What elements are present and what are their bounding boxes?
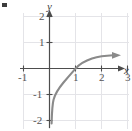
y-tick-label-neg1: -1 — [33, 89, 42, 100]
graph-figure: y x -1 1 2 3 2 1 -1 -2 — [0, 0, 132, 131]
data-curve — [52, 52, 121, 124]
x-tick-label-1: 1 — [73, 72, 79, 83]
curve-arrowhead — [112, 52, 121, 59]
graph-canvas — [0, 0, 132, 131]
x-tick-label-3: 3 — [125, 72, 131, 83]
x-tick-label-2: 2 — [99, 72, 105, 83]
y-tick-label-2: 2 — [39, 11, 45, 22]
y-axis-label: y — [47, 1, 52, 12]
x-tick-label-neg1: -1 — [18, 72, 27, 83]
y-tick-label-1: 1 — [39, 37, 45, 48]
y-tick-label-neg2: -2 — [33, 115, 42, 126]
